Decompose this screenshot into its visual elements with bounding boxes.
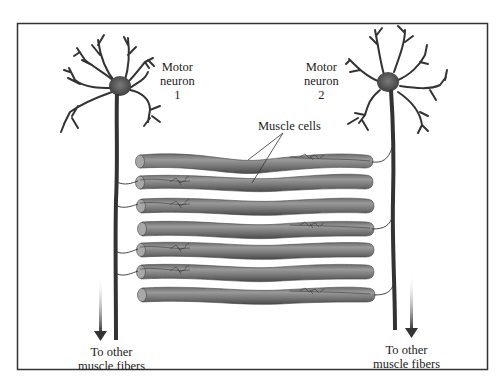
label-line: Motor <box>160 60 195 74</box>
label-to-other-fibers-right: To other muscle fibers <box>373 343 440 371</box>
axon-branches-neuron-2 <box>372 148 394 295</box>
label-line: muscle fibers <box>78 359 145 373</box>
soma-neuron-2 <box>377 72 399 92</box>
label-motor-neuron-2: Motor neuron 2 <box>304 60 339 102</box>
soma-neuron-1 <box>109 76 131 96</box>
muscle-fiber-3 <box>137 198 375 215</box>
arrow-right-to-other-fibers <box>405 273 418 338</box>
motor-unit-diagram: Motor neuron 1 Motor neuron 2 Muscle cel… <box>0 0 504 387</box>
axon-neuron-1 <box>116 94 117 340</box>
muscle-fiber-2 <box>136 174 374 191</box>
arrow-left-to-other-fibers <box>94 275 107 341</box>
label-line: 1 <box>160 88 195 102</box>
label-motor-neuron-1: Motor neuron 1 <box>160 60 195 102</box>
label-line: To other <box>78 345 145 359</box>
muscle-fibers <box>136 154 376 305</box>
muscle-fiber-4 <box>138 221 375 238</box>
muscle-fiber-1 <box>136 154 374 174</box>
label-to-other-fibers-left: To other muscle fibers <box>78 345 145 373</box>
axon-neuron-2 <box>391 90 395 330</box>
diagram-canvas <box>0 0 504 387</box>
label-line: muscle fibers <box>373 357 440 371</box>
muscle-fiber-5 <box>137 242 375 259</box>
label-line: Motor <box>304 60 339 74</box>
label-line: 2 <box>304 88 339 102</box>
figure-frame <box>18 24 488 370</box>
muscle-fiber-6 <box>137 264 375 281</box>
label-muscle-cells: Muscle cells <box>258 119 321 133</box>
axon-branches-neuron-1 <box>117 181 138 275</box>
label-line: To other <box>373 343 440 357</box>
muscle-fiber-7 <box>138 287 376 304</box>
label-line: neuron <box>304 74 339 88</box>
label-line: neuron <box>160 74 195 88</box>
